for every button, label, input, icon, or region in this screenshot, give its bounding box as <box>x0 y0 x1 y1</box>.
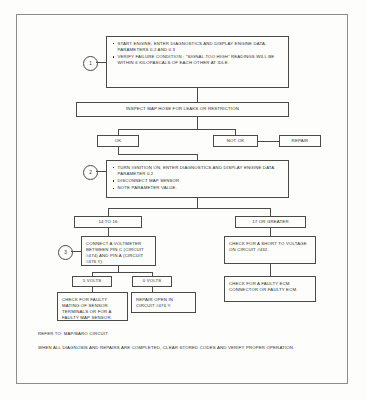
box-inspect-hose-label: INSPECT MAP HOSE FOR LEAKS OR RESTRICTIO… <box>126 106 239 112</box>
connector-step2-down <box>197 198 198 208</box>
box-5-volts-label: 5 VOLTS <box>83 278 102 284</box>
box-repair-open-label: REPAIR OPEN IN CIRCUIT #476 Y. <box>136 297 173 308</box>
connector-rangehigh-down <box>270 228 271 236</box>
connector-notok-to-repair <box>258 141 279 142</box>
box-step1: START ENGINE, ENTER DIAGNOSTICS AND DISP… <box>106 36 289 88</box>
box-faulty-ecm-label: CHECK FOR A FAULTY ECM CONNECTOR OR FAUL… <box>229 281 298 292</box>
step-marker-2-label: 2 <box>89 170 92 175</box>
box-short-to-voltage-label: CHECK FOR A SHORT TO VOLTAGE ON CIRCUIT … <box>229 241 307 252</box>
box-step3: CONNECT A VOLTMETER BETWEEN PIN C (CIRCU… <box>81 236 156 266</box>
step-marker-3: 3 <box>58 245 73 260</box>
box-step1-bullet-1: START ENGINE, ENTER DIAGNOSTICS AND DISP… <box>111 41 284 53</box>
connector-step1-to-inspect <box>197 88 198 102</box>
box-step3-label: CONNECT A VOLTMETER BETWEEN PIN C (CIRCU… <box>86 241 144 265</box>
box-not-ok-label: NOT OK <box>227 138 244 144</box>
box-repair-open: REPAIR OPEN IN CIRCUIT #476 Y. <box>131 292 196 313</box>
box-faulty-mating: CHECK FOR FAULTY MATING OF SENSOR TERMIN… <box>57 292 128 321</box>
connector-step2-marker <box>96 171 106 172</box>
connector-rangelow-down <box>108 228 109 236</box>
note-verify: WHEN ALL DIAGNOSIS AND REPAIRS ARE COMPL… <box>38 345 324 351</box>
box-0-volts-label: 0 VOLTS <box>143 278 162 284</box>
box-step2-bullets: TURN IGNITION ON, ENTER DIAGNOSTICS AND … <box>111 165 284 192</box>
connector-ok-to-step2 <box>118 154 197 155</box>
connector-to-range-high <box>270 208 271 216</box>
box-inspect-hose: INSPECT MAP HOSE FOR LEAKS OR RESTRICTIO… <box>76 102 289 117</box>
connector-volts-split <box>92 272 152 273</box>
box-range-low-label: 14 TO 16 <box>98 219 117 225</box>
connector-inspect-down <box>197 117 198 129</box>
box-faulty-mating-label: CHECK FOR FAULTY MATING OF SENSOR TERMIN… <box>62 297 112 321</box>
connector-range-split <box>108 208 270 209</box>
connector-step1-marker <box>96 62 106 63</box>
box-step2-bullet-1: TURN IGNITION ON, ENTER DIAGNOSTICS AND … <box>111 165 284 177</box>
box-range-high-label: 17 OR GREATER <box>252 219 288 225</box>
box-step1-bullet-2: VERIFY FAILURE CONDITION : “SIGNAL TOO H… <box>111 54 284 66</box>
box-not-ok: NOT OK <box>213 135 258 147</box>
box-step1-bullets: START ENGINE, ENTER DIAGNOSTICS AND DISP… <box>111 41 284 67</box>
note-refer: REFER TO: MAP/BARO CIRCUIT. <box>38 331 318 337</box>
step-marker-3-label: 3 <box>64 250 67 255</box>
connector-ok-down <box>118 147 119 154</box>
connector-inspect-split <box>118 129 236 130</box>
box-step2-bullet-2: DISCONNECT MAP SENSOR. <box>111 178 284 184</box>
connector-to-range-low <box>108 208 109 216</box>
box-faulty-ecm: CHECK FOR A FAULTY ECM CONNECTOR OR FAUL… <box>224 276 316 302</box>
step-marker-1: 1 <box>83 56 98 71</box>
box-ok-label: OK <box>115 138 122 144</box>
box-ok: OK <box>97 135 139 147</box>
box-5-volts: 5 VOLTS <box>72 276 112 287</box>
box-0-volts: 0 VOLTS <box>132 276 172 287</box>
step-marker-2: 2 <box>83 165 98 180</box>
flowchart-page: 1 START ENGINE, ENTER DIAGNOSTICS AND DI… <box>0 0 366 401</box>
step-marker-1-label: 1 <box>89 61 92 66</box>
box-short-to-voltage: CHECK FOR A SHORT TO VOLTAGE ON CIRCUIT … <box>224 236 316 264</box>
box-step2-bullet-3: NOTE PARAMETER VALUE. <box>111 185 284 191</box>
box-range-low: 14 TO 16 <box>74 216 142 228</box>
box-repair: REPAIR <box>279 135 321 147</box>
box-repair-label: REPAIR <box>292 138 309 144</box>
connector-short-to-ecm <box>270 264 271 276</box>
box-range-high: 17 OR GREATER <box>235 216 306 228</box>
box-step2: TURN IGNITION ON, ENTER DIAGNOSTICS AND … <box>106 160 289 198</box>
connector-step3-marker <box>71 251 81 252</box>
